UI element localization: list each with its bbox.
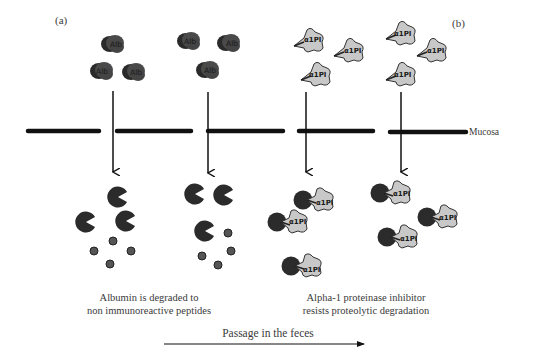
albumin-label: Alb	[130, 68, 142, 77]
a1pi-label: α1PI	[304, 36, 321, 44]
mucosa-label: Mucosa	[469, 127, 500, 137]
a1pi-label: α1PI	[309, 71, 326, 79]
a1pi-label: α1PI	[394, 30, 411, 38]
albumin-cluster-2: Alb Alb Alb	[177, 32, 240, 79]
albumin-label: Alb	[204, 66, 216, 75]
a1pi-label: α1PI	[427, 47, 444, 55]
caption-a-line2: non immunoreactive peptides	[87, 305, 211, 316]
bound-complex-cluster-2: α1PI α1PI α1PI	[371, 181, 458, 248]
caption-b-line1: Alpha-1 proteinase inhibitor	[307, 292, 426, 303]
a1pi-label: α1PI	[289, 218, 306, 226]
bound-complex-cluster-1: α1PI α1PI α1PI	[268, 188, 334, 277]
panel-b-label: (b)	[452, 17, 465, 30]
a1pi-label: α1PI	[394, 71, 411, 79]
albumin-label: Alb	[96, 67, 108, 76]
caption-a-line1: Albumin is degraded to	[100, 292, 199, 303]
a1pi-label: α1PI	[439, 214, 456, 222]
a1pi-label: α1PI	[400, 235, 417, 243]
diagram-canvas: (a) (b) Alb Alb Alb Alb Alb Alb α1PI α1P…	[0, 0, 550, 354]
protease-cluster-1	[75, 187, 135, 233]
albumin-label: Alb	[226, 39, 238, 48]
a1pi-label: α1PI	[344, 47, 361, 55]
peptide-fragments-1	[90, 237, 135, 268]
a1pi-cluster-1: α1PI α1PI α1PI	[294, 28, 363, 86]
albumin-label: Alb	[110, 40, 122, 49]
panel-a-label: (a)	[55, 14, 68, 27]
a1pi-cluster-2: α1PI α1PI α1PI	[386, 21, 446, 86]
albumin-label: Alb	[184, 37, 196, 46]
flow-label: Passage in the feces	[222, 327, 314, 340]
a1pi-label: α1PI	[316, 199, 333, 207]
caption-b-line2: resists proteolytic degradation	[303, 305, 430, 316]
albumin-cluster-1: Alb Alb Alb	[90, 35, 145, 81]
a1pi-label: α1PI	[303, 266, 320, 274]
a1pi-label: α1PI	[393, 190, 410, 198]
